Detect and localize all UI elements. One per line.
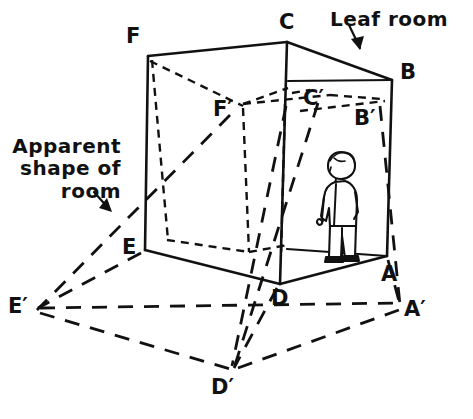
edge-Cprime-to-Dprime: [234, 103, 318, 368]
vertex-label-A: A: [381, 264, 397, 285]
vertex-label-B: B: [400, 62, 416, 83]
edge-ceiling-back-right: [288, 80, 392, 81]
vertex-label-D-prime: D′: [211, 377, 234, 398]
edge-Eprime-to-Dprime: [40, 313, 230, 369]
person-face-line: [330, 167, 331, 171]
person-shoe-left: [325, 257, 343, 262]
vertex-label-F-prime: F′: [213, 99, 233, 120]
edge-F-E: [145, 56, 148, 250]
person-shoe-right: [344, 256, 359, 261]
edge-Cprime-to-Dprime-inner: [232, 106, 286, 366]
person-torso: [322, 181, 357, 227]
vertex-label-E: E: [122, 237, 136, 258]
edge-inner-left-vertical: [152, 60, 168, 240]
vertex-label-C: C: [279, 12, 294, 33]
edge-F-C: [148, 42, 287, 56]
edge-B-A: [387, 80, 392, 256]
standing-person: [317, 152, 359, 262]
vertex-label-C-prime: C′: [303, 88, 324, 109]
person-hand: [317, 219, 322, 225]
vertex-label-E-prime: E′: [8, 296, 28, 317]
edge-E-D: [145, 250, 280, 284]
edge-Fprime-top-connector: [243, 88, 288, 104]
ames-room-figure: F C B F′ C′ B′ E A D E′ A′ D′ Leaf room …: [0, 0, 473, 419]
edge-Eprime-to-Aprime: [40, 303, 400, 308]
edge-Dprime-to-Aprime: [238, 310, 399, 368]
vertex-label-B-prime: B′: [354, 108, 376, 129]
edge-Fprime-vertical: [243, 108, 249, 252]
apparent-shape-annotation: Apparent shape of room: [6, 135, 121, 202]
leaf-room-annotation: Leaf room: [330, 8, 448, 30]
leaf-room-arrow-head: [351, 36, 364, 50]
edge-inner-floor-left: [167, 240, 249, 252]
vertex-label-A-prime: A′: [404, 299, 426, 320]
edge-Cprime-Bprime: [330, 95, 382, 99]
vertex-label-D: D: [271, 288, 288, 309]
edge-E-to-Eprime: [38, 253, 141, 308]
vertex-label-F: F: [126, 26, 140, 47]
edge-C-B: [287, 42, 392, 80]
